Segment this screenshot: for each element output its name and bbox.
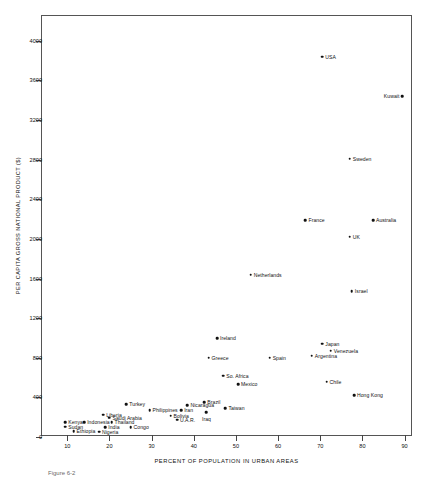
data-point-label: Chile [330,379,342,385]
data-point-label: Israel [355,288,368,294]
x-tick-label: 60 [275,443,281,449]
data-point-label: Indonesia [87,419,110,425]
data-point-label: Turkey [129,401,145,407]
y-tick-label: 1200 [30,315,42,321]
data-point-label: Spain [273,355,286,361]
data-point-marker[interactable] [321,55,324,58]
data-point-marker[interactable] [180,409,183,412]
data-point-marker[interactable] [351,290,354,293]
data-point-marker[interactable] [329,350,332,353]
data-point-label: Ethiopia [77,428,96,434]
data-point-label: Australia [376,217,396,223]
x-tick-mark [320,435,321,441]
x-tick-mark [194,435,195,441]
plot-area: 040080012001600200024002800320036004000 … [41,15,412,436]
data-point-label: Sweden [353,156,372,162]
x-tick-label: 40 [191,443,197,449]
y-tick-label: 4000 [30,38,42,44]
figure-caption: Figure 6-2 [48,470,75,476]
data-point-label: Taiwan [228,405,244,411]
data-point-marker[interactable] [169,414,172,417]
data-point-label: Hong Kong [357,392,383,398]
data-point-marker[interactable] [83,421,86,424]
data-point-label: Greece [212,355,229,361]
data-point-marker[interactable] [176,418,179,421]
y-tick-label: 400 [33,394,42,400]
x-tick-label: 90 [401,443,407,449]
data-point-label: Mexico [241,381,257,387]
y-tick-label: 2800 [30,157,42,163]
data-point-label: Kuwait [384,93,400,99]
data-point-marker[interactable] [64,421,67,424]
data-point-label: Japan [325,341,339,347]
data-point-label: Nicaragua [190,402,214,408]
data-point-marker[interactable] [216,337,219,340]
data-point-marker[interactable] [110,421,113,424]
data-point-marker[interactable] [249,273,252,276]
data-point-label: Venezuela [334,348,358,354]
data-point-marker[interactable] [148,409,151,412]
x-tick-mark [109,435,110,441]
x-tick-label: 70 [317,443,323,449]
data-point-marker[interactable] [222,374,225,377]
data-point-marker[interactable] [348,236,351,239]
x-tick-mark [362,435,363,441]
data-point-label: Nigeria [102,429,119,435]
y-tick-label: 0 [39,434,42,440]
y-tick-label: 2000 [30,236,42,242]
data-point-label: Iraq [202,416,211,422]
x-tick-label: 10 [64,443,70,449]
data-point-marker[interactable] [224,407,227,410]
x-tick-mark [236,435,237,441]
x-tick-label: 80 [359,443,365,449]
x-axis-title: PERCENT OF POPULATION IN URBAN AREAS [41,458,412,464]
data-point-marker[interactable] [401,95,404,98]
data-point-label: UK [353,234,360,240]
data-point-label: Ireland [220,335,236,341]
y-tick-label: 800 [33,355,42,361]
x-tick-label: 30 [148,443,154,449]
y-tick-label: 3200 [30,117,42,123]
y-tick-label: 1600 [30,276,42,282]
y-axis-title: PER CAPITA GROSS NATIONAL PRODUCT ($) [12,15,24,436]
data-point-label: So. Africa [226,373,248,379]
data-point-marker[interactable] [268,356,271,359]
data-point-marker[interactable] [207,356,210,359]
y-tick-label: 3600 [30,77,42,83]
x-tick-mark [278,435,279,441]
data-point-marker[interactable] [98,430,101,433]
y-tick-label: 2400 [30,196,42,202]
data-point-marker[interactable] [321,343,324,346]
x-tick-mark [67,435,68,441]
data-point-label: U.A.R. [180,417,195,423]
x-tick-label: 20 [106,443,112,449]
scatter-plot-figure: PER CAPITA GROSS NATIONAL PRODUCT ($) 04… [0,0,429,488]
data-point-marker[interactable] [353,394,356,397]
data-point-label: Netherlands [254,272,282,278]
data-point-label: Argentina [315,353,337,359]
data-point-marker[interactable] [72,430,75,433]
data-point-label: France [308,217,324,223]
data-point-marker[interactable] [125,403,128,406]
data-point-marker[interactable] [237,383,240,386]
data-point-label: USA [325,54,336,60]
data-point-marker[interactable] [205,411,208,414]
x-tick-mark [152,435,153,441]
x-tick-mark [405,435,406,441]
data-point-marker[interactable] [186,404,189,407]
data-point-marker[interactable] [372,219,375,222]
data-point-marker[interactable] [129,426,132,429]
data-point-marker[interactable] [64,425,67,428]
data-point-marker[interactable] [304,219,307,222]
data-point-marker[interactable] [102,413,105,416]
data-point-marker[interactable] [311,354,314,357]
data-point-marker[interactable] [348,157,351,160]
x-tick-label: 50 [233,443,239,449]
data-point-marker[interactable] [325,380,328,383]
data-point-label: Congo [134,424,149,430]
